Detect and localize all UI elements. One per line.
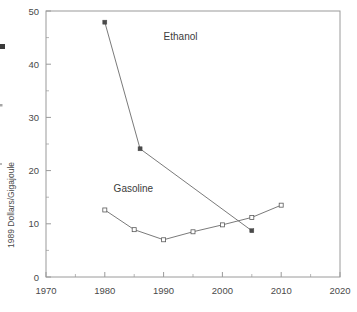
left-edge-marks [0, 44, 5, 165]
data-point-gasoline [103, 208, 107, 212]
x-tick-label: 2020 [329, 285, 350, 296]
chart-container: 197019801990200020102020 01020304050 198… [0, 0, 357, 312]
y-tick-label: 20 [28, 165, 39, 176]
series-label-ethanol: Ethanol [164, 31, 198, 42]
x-axis-tick-labels: 197019801990200020102020 [35, 285, 350, 296]
series-markers [103, 20, 283, 242]
x-tick-label: 2010 [271, 285, 292, 296]
series-label-gasoline: Gasoline [114, 183, 154, 194]
chart-frame [46, 11, 340, 277]
data-point-gasoline [220, 223, 224, 227]
data-point-gasoline [132, 228, 136, 232]
line-chart: 197019801990200020102020 01020304050 198… [0, 0, 357, 312]
x-tick-label: 2000 [212, 285, 233, 296]
y-axis-ticks [46, 11, 51, 277]
y-tick-label: 30 [28, 112, 39, 123]
x-axis-ticks [46, 272, 340, 277]
y-axis-title: 1989 Dollars/Gigajoule [6, 162, 16, 248]
y-axis-tick-labels: 01020304050 [28, 6, 39, 283]
series-line-gasoline [105, 205, 281, 240]
y-tick-label: 10 [28, 218, 39, 229]
y-tick-label: 0 [34, 272, 39, 283]
data-point-ethanol [250, 229, 254, 233]
data-point-gasoline [162, 238, 166, 242]
series-lines [105, 22, 281, 240]
data-point-gasoline [191, 230, 195, 234]
y-tick-label: 40 [28, 59, 39, 70]
data-point-ethanol [103, 20, 107, 24]
svg-text:1989 Dollars/Gigajoule: 1989 Dollars/Gigajoule [6, 162, 16, 248]
series-annotations: EthanolGasoline [114, 31, 198, 194]
data-point-ethanol [138, 147, 142, 151]
y-tick-label: 50 [28, 6, 39, 17]
x-tick-label: 1990 [153, 285, 174, 296]
data-point-gasoline [279, 203, 283, 207]
x-tick-label: 1970 [35, 285, 56, 296]
series-line-ethanol [105, 22, 252, 231]
x-tick-label: 1980 [94, 285, 115, 296]
data-point-gasoline [250, 215, 254, 219]
